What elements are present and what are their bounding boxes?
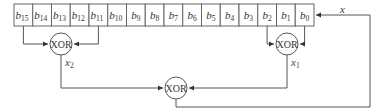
left-xor-wiring xyxy=(23,26,163,88)
svg-text:XOR: XOR xyxy=(165,83,186,94)
xor-gate-left: XOR xyxy=(50,33,72,55)
lfsr-diagram: b15b14b13b12b11b10b9b8b7b6b5b4b3b2b1b0 X… xyxy=(0,0,386,111)
register-cell-b1: b1 xyxy=(277,4,296,26)
register-cell-b7: b7 xyxy=(164,4,183,26)
register-cell-b4: b4 xyxy=(220,4,239,26)
register-cell-b5: b5 xyxy=(202,4,221,26)
register-cell-b11: b11 xyxy=(89,4,108,26)
svg-text:XOR: XOR xyxy=(276,39,297,50)
register-cell-b3: b3 xyxy=(239,4,258,26)
register-cell-b6: b6 xyxy=(183,4,202,26)
register-cell-b12: b12 xyxy=(70,4,89,26)
xor-gate-bottom: XOR xyxy=(165,77,187,99)
register-cell-b9: b9 xyxy=(127,4,146,26)
register-cell-b0: b0 xyxy=(295,4,314,26)
label-x-feedback: x xyxy=(339,3,345,15)
feedback-wiring xyxy=(176,15,370,107)
register-cell-b14: b14 xyxy=(33,4,52,26)
shift-register: b15b14b13b12b11b10b9b8b7b6b5b4b3b2b1b0 xyxy=(14,4,314,26)
register-cell-b15: b15 xyxy=(14,4,33,26)
svg-text:XOR: XOR xyxy=(50,39,71,50)
register-cell-b10: b10 xyxy=(108,4,127,26)
register-cell-b13: b13 xyxy=(52,4,71,26)
label-x1: x1 xyxy=(290,56,300,70)
xor-gate-right: XOR xyxy=(276,33,298,55)
register-cell-b8: b8 xyxy=(145,4,164,26)
label-x2: x2 xyxy=(64,56,74,70)
register-cell-b2: b2 xyxy=(258,4,277,26)
